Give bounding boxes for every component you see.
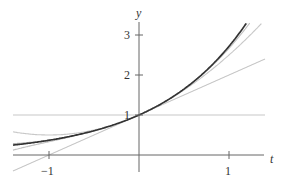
curve-p2 xyxy=(13,24,261,135)
y-tick-label-2: 2 xyxy=(124,68,130,82)
y-tick-label-3: 3 xyxy=(124,28,130,42)
x-axis-label: t xyxy=(270,152,274,166)
curve-p3 xyxy=(13,23,250,150)
chart: −1 1 1 2 3 t y xyxy=(0,0,285,188)
y-axis-label: y xyxy=(135,6,142,20)
axes: −1 1 1 2 3 t y xyxy=(13,6,274,178)
x-tick-label-1: 1 xyxy=(225,164,231,178)
x-tick-label-neg1: −1 xyxy=(41,164,54,178)
y-tick-label-1: 1 xyxy=(124,108,130,122)
curve-p4 xyxy=(13,23,247,144)
